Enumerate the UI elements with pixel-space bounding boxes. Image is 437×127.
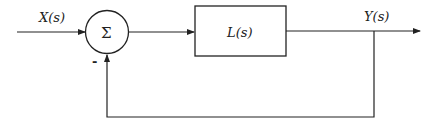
feedback-path xyxy=(107,31,374,117)
feedback-minus-sign: - xyxy=(92,54,97,69)
sigma-symbol: Σ xyxy=(101,24,112,42)
input-label: X(s) xyxy=(38,10,65,25)
block-diagram: X(s) Σ - L(s) Y(s) xyxy=(0,0,437,127)
output-label: Y(s) xyxy=(364,9,389,24)
block-label: L(s) xyxy=(226,25,252,40)
